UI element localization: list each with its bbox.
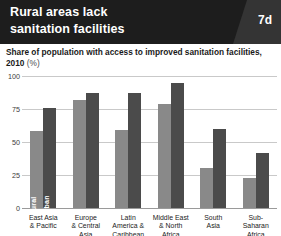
- x-category-label: Middle East& NorthAfrica: [150, 214, 193, 236]
- bar-group: [65, 76, 108, 208]
- x-category-label-line: & North: [151, 222, 192, 230]
- x-category-label-line: Africa: [236, 231, 277, 236]
- x-category-label-line: & Central: [66, 222, 107, 230]
- x-category-label-line: Sub-Saharan: [236, 214, 277, 231]
- bar-rural[interactable]: [73, 100, 86, 208]
- bar-urban[interactable]: [128, 93, 141, 208]
- series-label-rural: Rural: [30, 197, 37, 216]
- gridline-0: [22, 208, 277, 209]
- bar-urban[interactable]: [213, 129, 226, 208]
- y-tick-label-25: 25: [0, 171, 20, 180]
- bar-group: [107, 76, 150, 208]
- x-category-label-line: Asia: [193, 222, 234, 230]
- x-category-label-line: Caribbean: [108, 231, 149, 236]
- y-tick-label-50: 50: [0, 138, 20, 147]
- bar-rural[interactable]: Rural: [30, 131, 43, 208]
- chart-axes: RuralUrban: [22, 76, 277, 208]
- bar-urban[interactable]: [256, 153, 269, 208]
- x-category-label-line: Asia: [66, 231, 107, 236]
- bar-group: [192, 76, 235, 208]
- y-tick-label-100: 100: [0, 72, 20, 81]
- y-tick-label-0: 0: [0, 204, 20, 213]
- x-category-label-line: America &: [108, 222, 149, 230]
- chart-header: Rural areas lack sanitation facilities 7…: [0, 0, 281, 44]
- bar-urban[interactable]: [171, 83, 184, 208]
- y-tick-label-75: 75: [0, 105, 20, 114]
- x-category-label-line: East Asia: [23, 214, 64, 222]
- bar-rural[interactable]: [200, 168, 213, 208]
- x-category-label: Sub-SaharanAfrica: [235, 214, 278, 236]
- bar-rural[interactable]: [243, 178, 256, 208]
- figure-number-badge: 7d: [258, 13, 272, 27]
- x-category-label-line: Latin: [108, 214, 149, 222]
- bar-group: [235, 76, 278, 208]
- bar-series-layer: RuralUrban: [22, 76, 277, 208]
- chart-subtitle: Share of population with access to impro…: [6, 47, 276, 68]
- chart-figure: Rural areas lack sanitation facilities 7…: [0, 0, 281, 236]
- chart-title: Rural areas lack sanitation facilities: [10, 4, 210, 38]
- x-category-label-line: South: [193, 214, 234, 222]
- x-category-label: East Asia& Pacific: [22, 214, 65, 236]
- bar-urban[interactable]: Urban: [43, 108, 56, 208]
- chart-subtitle-line-1: Share of population with access to impro…: [6, 47, 262, 57]
- x-axis-category-labels: East Asia& PacificEurope& CentralAsiaLat…: [22, 214, 277, 236]
- bar-urban[interactable]: [86, 93, 99, 208]
- chart-title-line-1: Rural areas lack: [10, 4, 210, 21]
- x-category-label-line: & Pacific: [23, 222, 64, 230]
- chart-title-line-2: sanitation facilities: [10, 21, 210, 38]
- chart-subtitle-unit: (%): [27, 58, 40, 68]
- bar-rural[interactable]: [115, 130, 128, 208]
- chart-subtitle-year: 2010: [6, 58, 24, 68]
- x-category-label: Europe& CentralAsia: [65, 214, 108, 236]
- chart-plot-area: RuralUrban 0255075100 East Asia& Pacific…: [0, 70, 281, 236]
- bar-group: RuralUrban: [22, 76, 65, 208]
- x-category-label-line: Middle East: [151, 214, 192, 222]
- bar-rural[interactable]: [158, 104, 171, 208]
- x-category-label: SouthAsia: [192, 214, 235, 236]
- x-category-label: LatinAmerica &Caribbean: [107, 214, 150, 236]
- x-category-label-line: Europe: [66, 214, 107, 222]
- x-category-label-line: Africa: [151, 231, 192, 236]
- bar-group: [150, 76, 193, 208]
